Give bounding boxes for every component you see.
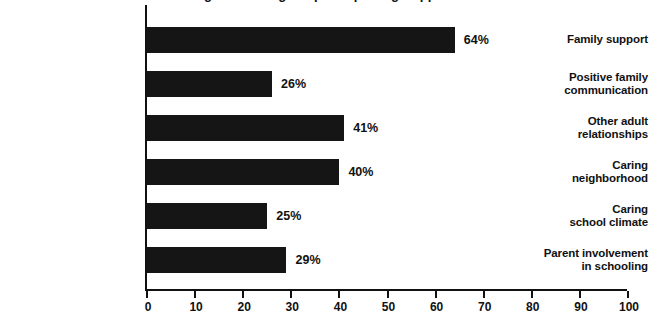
tick-mark (146, 291, 148, 298)
tick-label: 100 (609, 300, 649, 314)
tick-mark (387, 291, 389, 298)
tick-label: 90 (561, 300, 601, 314)
bar-value-label: 26% (281, 71, 306, 97)
bar-value-label: 41% (353, 115, 378, 141)
tick-mark (579, 291, 581, 298)
category-label-line2: school climate (507, 216, 648, 229)
bar (147, 71, 272, 97)
category-label-line2: relationships (507, 128, 648, 141)
tick-mark (435, 291, 437, 298)
tick-label: 80 (513, 300, 553, 314)
tick-mark (194, 291, 196, 298)
bar (147, 203, 267, 229)
category-label-line1: Positive family (507, 71, 648, 84)
bar (147, 159, 339, 185)
tick-label: 10 (176, 300, 216, 314)
tick-label: 20 (224, 300, 264, 314)
bar (147, 115, 344, 141)
bar-value-label: 64% (464, 27, 489, 53)
tick-mark (483, 291, 485, 298)
tick-label: 70 (465, 300, 505, 314)
category-label: Caringneighborhood (507, 159, 648, 185)
category-label: Caringschool climate (507, 203, 648, 229)
bar-value-label: 25% (276, 203, 301, 229)
category-label-line2: communication (507, 84, 648, 97)
category-label: Positive familycommunication (507, 71, 648, 97)
bar (147, 247, 286, 273)
category-label-line2: neighborhood (507, 172, 648, 185)
category-label-line1: Other adult (507, 115, 648, 128)
category-label-line2: in schooling (507, 260, 648, 273)
bar-value-label: 29% (295, 247, 320, 273)
tick-mark (242, 291, 244, 298)
tick-label: 0 (128, 300, 168, 314)
tick-mark (627, 291, 629, 298)
category-label-line1: Parent involvement (507, 247, 648, 260)
bar-value-label: 40% (348, 159, 373, 185)
category-label-line1: Family support (507, 33, 648, 46)
tick-label: 60 (417, 300, 457, 314)
tick-label: 40 (320, 300, 360, 314)
tick-mark (290, 291, 292, 298)
category-label: Other adultrelationships (507, 115, 648, 141)
category-label: Family support (507, 33, 648, 46)
bar (147, 27, 455, 53)
category-label-line1: Caring (507, 203, 648, 216)
tick-mark (531, 291, 533, 298)
tick-label: 30 (272, 300, 312, 314)
category-label: Parent involvementin schooling (507, 247, 648, 273)
tick-mark (338, 291, 340, 298)
category-label-line1: Caring (507, 159, 648, 172)
tick-label: 50 (369, 300, 409, 314)
